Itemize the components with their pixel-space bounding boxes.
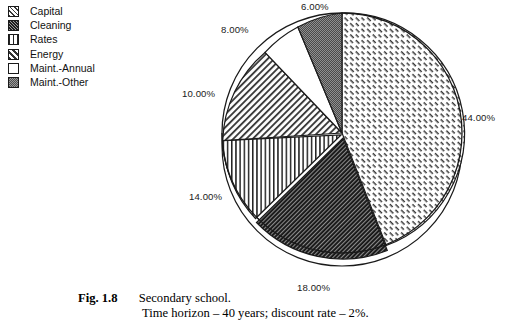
legend-label: Cleaning [30, 20, 71, 31]
legend-label: Maint.-Annual [30, 63, 95, 74]
legend-item-rates[interactable]: Rates [8, 33, 138, 47]
pie-label-energy: 10.00% [182, 88, 215, 99]
legend: Capital Cleaning Rates Energy Maint.-Ann… [8, 4, 138, 90]
pie-label-maint-annual: 8.00% [221, 24, 249, 35]
pie-label-capital: 44.00% [462, 112, 495, 123]
legend-item-maint-annual[interactable]: Maint.-Annual [8, 61, 138, 75]
legend-label: Energy [30, 49, 63, 60]
pie-label-rates: 14.00% [189, 191, 222, 202]
legend-label: Capital [30, 6, 63, 17]
pie-label-maint-other: 6.00% [301, 1, 329, 12]
figure-caption: Fig. 1.8 Secondary school. Time horizon … [78, 291, 498, 321]
pattern-swatch-icon [8, 20, 19, 31]
legend-item-cleaning[interactable]: Cleaning [8, 18, 138, 32]
legend-item-maint-other[interactable]: Maint.-Other [8, 75, 138, 89]
pattern-swatch-icon [8, 34, 19, 45]
legend-label: Maint.-Other [30, 77, 88, 88]
caption-line-2: Time horizon – 40 years; discount rate –… [142, 306, 498, 321]
legend-label: Rates [30, 34, 57, 45]
legend-item-capital[interactable]: Capital [8, 4, 138, 18]
pattern-swatch-icon [8, 49, 19, 60]
pattern-swatch-icon [8, 63, 19, 74]
pattern-swatch-icon [8, 77, 19, 88]
figure-number: Fig. 1.8 [78, 291, 118, 305]
pattern-swatch-icon [8, 6, 19, 17]
legend-item-energy[interactable]: Energy [8, 47, 138, 61]
caption-line-1: Secondary school. [139, 291, 231, 305]
figure-container: 44.00% 18.00% 14.00% 10.00% 8.00% 6.00% … [0, 0, 505, 328]
